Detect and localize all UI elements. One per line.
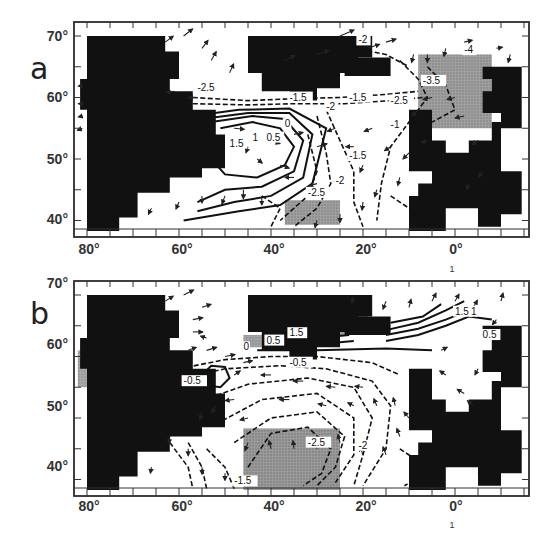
contour-label: -1.5 [289,92,307,103]
scale-vector-label: 1 [449,520,454,530]
contour-label: -2.5 [308,437,326,448]
x-tick-label-60: 60° [171,499,192,513]
shaded-region [285,200,340,225]
panel-letter-a: a [30,54,48,84]
contour-label: 0.5 [483,329,497,340]
contour-label: 0.5 [266,335,280,346]
contour-label: -3.5 [423,75,441,86]
contour-label: 1 [471,306,477,317]
contour-label: 1.5 [230,138,244,149]
y-tick-label-50: 50° [24,399,68,413]
contour-label: -1 [391,119,400,130]
contour-label: -2.5 [197,82,215,93]
y-tick-label-40: 40° [24,212,68,226]
panel-letter-b: b [30,299,49,329]
x-tick-label-0: 0° [449,499,462,513]
contour-label: -2 [358,34,367,45]
panel-b: 1.50.50-0.5-0.51.510.5-2.5-2-1.5 b 70° 6… [0,259,554,518]
contour-label: -2 [326,101,335,112]
contour-label: -4 [464,44,473,55]
contour-label: 0 [285,118,291,129]
x-tick-label-40: 40° [263,242,284,256]
contour-label: 1.5 [455,306,469,317]
x-tick-label-0: 0° [449,242,462,256]
x-tick-label-40: 40° [263,499,284,513]
panel-a: -2.5-1.5-1.5-2-2-2.5-3.5-400.511.5-1.5-2… [0,0,554,259]
x-tick-label-20: 20° [355,499,376,513]
x-tick-label-20: 20° [355,242,376,256]
contour-label: -2 [358,440,367,451]
y-tick-label-60: 60° [24,337,68,351]
map-panel-a: -2.5-1.5-1.5-2-2-2.5-3.5-400.511.5-1.5-2… [0,0,554,259]
contour-label: -1.5 [349,92,367,103]
x-tick-label-80: 80° [78,242,99,256]
x-tick-label-60: 60° [171,242,192,256]
contour-label: -2.5 [391,95,409,106]
figure-caption-cut [8,538,548,550]
contour-label: -1.5 [234,475,252,486]
contour-label: -0.5 [184,375,202,386]
contour-label: -0.5 [289,357,307,368]
y-tick-label-50: 50° [24,152,68,166]
contour-label: 0.5 [266,132,280,143]
contour-label: 1 [253,132,259,143]
contour-label: 0 [243,341,249,352]
map-panel-b: 1.50.50-0.5-0.51.510.5-2.5-2-1.5 [0,259,554,518]
y-tick-label-70: 70° [24,29,68,43]
y-tick-label-60: 60° [24,90,68,104]
y-tick-label-70: 70° [24,276,68,290]
y-tick-label-40: 40° [24,459,68,473]
contour-label: -2.5 [308,187,326,198]
contour-label: -1.5 [349,150,367,161]
contour-label: 1.5 [289,327,303,338]
contour-label: -2 [335,175,344,186]
x-tick-label-80: 80° [78,499,99,513]
